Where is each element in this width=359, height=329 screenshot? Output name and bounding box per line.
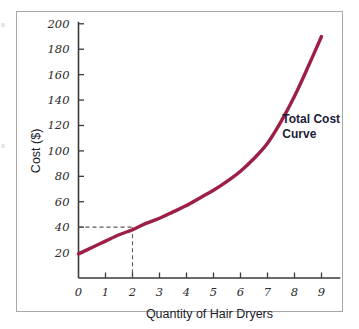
scan-artifact-lower: [1, 144, 5, 148]
figure-root: 20406080100120140160180200 0123456789 To…: [0, 0, 359, 329]
chart-frame-border: [16, 11, 343, 312]
scan-artifact-upper: [1, 23, 5, 27]
